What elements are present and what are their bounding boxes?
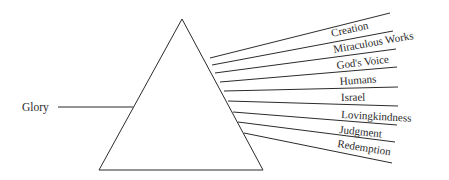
input-label: Glory — [22, 101, 49, 114]
ray-line — [224, 87, 398, 91]
output-label-israel: Israel — [341, 91, 366, 103]
output-label-judgment: Judgment — [339, 123, 383, 139]
output-label-humans: Humans — [339, 72, 376, 87]
prism-triangle — [99, 19, 263, 170]
output-label-creation: Creation — [330, 19, 370, 39]
ray-line — [228, 101, 398, 106]
prism-diagram: Glory Creation Miraculous Works God's Vo… — [0, 0, 449, 180]
output-rays — [210, 13, 398, 163]
